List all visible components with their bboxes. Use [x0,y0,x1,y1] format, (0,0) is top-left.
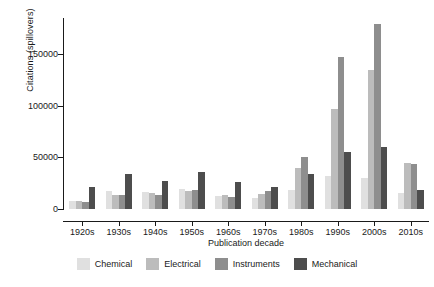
bar [411,164,418,209]
bar [252,198,259,209]
y-tick-label: 0 [10,205,58,214]
x-tick-mark [374,221,375,226]
y-tick-label: 100000 [10,102,58,111]
legend-swatch-icon [146,258,159,270]
bar [271,187,278,209]
bar [142,192,149,209]
legend-item[interactable]: Instruments [215,258,280,270]
x-tick-mark [119,221,120,226]
bar [381,147,388,209]
legend-label: Instruments [233,259,280,269]
bar [155,195,162,209]
bar [192,190,199,209]
bar [325,176,332,209]
bar [162,181,169,209]
plot-area [64,18,429,209]
bar [82,202,89,209]
bar [228,197,235,209]
legend-label: Mechanical [312,259,358,269]
legend-swatch-icon [77,258,90,270]
bar [179,189,186,209]
bar [295,168,302,209]
bar [417,190,424,209]
bar [344,152,351,209]
bar [112,195,119,209]
bar [149,193,156,209]
bar [404,163,411,209]
x-tick-mark [82,221,83,226]
legend-swatch-icon [215,258,228,270]
y-tick-mark [58,209,64,210]
bar [235,182,242,209]
y-tick-label: 50000 [10,153,58,162]
bar [301,157,308,209]
x-tick-mark [301,221,302,226]
bar [368,70,375,209]
bar [308,174,315,209]
bar [125,174,132,209]
y-axis-title: Citations (spillovers) [25,0,35,135]
legend-label: Chemical [95,259,133,269]
bar [119,195,126,209]
legend-item[interactable]: Chemical [77,258,133,270]
bar [398,193,405,209]
bar [89,187,96,209]
bar [338,57,345,209]
x-tick-mark [338,221,339,226]
x-tick-mark [411,221,412,226]
x-axis-title: Publication decade [63,238,429,248]
bar [331,109,338,209]
bar [222,195,229,209]
bar-chart: Citations (spillovers) 05000010000015000… [0,0,434,287]
x-tick-label: 2010s [381,227,434,237]
bar [69,201,76,209]
x-tick-mark [192,221,193,226]
bar [288,190,295,209]
bar [361,178,368,209]
bar [106,191,113,209]
bar [76,201,83,209]
bar [374,24,381,209]
legend-label: Electrical [164,259,201,269]
bar [215,196,222,209]
y-tick-label: 150000 [10,50,58,59]
bar [258,194,265,209]
bar [185,191,192,209]
bar [198,172,205,209]
x-tick-mark [155,221,156,226]
bar [265,191,272,209]
legend-swatch-icon [294,258,307,270]
legend-item[interactable]: Mechanical [294,258,358,270]
x-tick-mark [265,221,266,226]
chart-legend: ChemicalElectricalInstrumentsMechanical [0,258,434,270]
x-tick-mark [228,221,229,226]
legend-item[interactable]: Electrical [146,258,201,270]
